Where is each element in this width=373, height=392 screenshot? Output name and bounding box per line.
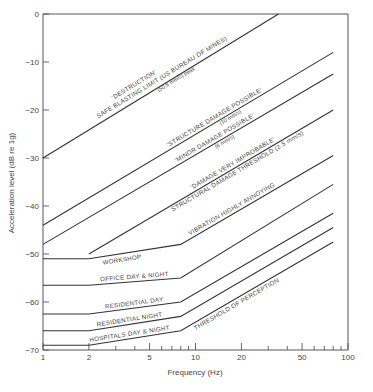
- x-tick-label: 10: [191, 353, 200, 362]
- curve-residential-day: [43, 213, 333, 314]
- y-tick-label: −70: [25, 346, 39, 355]
- y-tick-label: −60: [25, 298, 39, 307]
- vibration-criteria-chart: 0−10−20−30−40−50−60−70125102050100 'DEST…: [0, 0, 373, 392]
- x-axis-title: Frequency (Hz): [167, 368, 222, 377]
- y-tick-label: −20: [25, 106, 39, 115]
- curve-residential-night: [43, 228, 333, 331]
- x-tick-label: 100: [341, 353, 355, 362]
- y-tick-label: −40: [25, 202, 39, 211]
- y-tick-label: −50: [25, 250, 39, 259]
- x-tick-label: 20: [237, 353, 246, 362]
- x-tick-label: 5: [147, 353, 152, 362]
- label-workshop: WORKSHOP: [102, 253, 142, 266]
- label-structural-damage-threshold: STRUCTURAL DAMAGE THRESHOLD (2.5 mm/s): [170, 129, 305, 212]
- x-tick-label: 50: [298, 353, 307, 362]
- y-tick-label: 0: [35, 10, 40, 19]
- y-tick-label: −10: [25, 58, 39, 67]
- curve-minor-damage-possible: [43, 74, 333, 244]
- curve-labels: 'DESTRUCTION'SAFE BLASTING LIMIT (US BUR…: [89, 34, 305, 343]
- curve-workshop: [43, 156, 333, 259]
- label-office: OFFICE DAY & NIGHT: [100, 270, 169, 282]
- label-safe-blasting-limit: SAFE BLASTING LIMIT (US BUREAU OF MINES): [95, 34, 228, 119]
- x-tick-label: 1: [41, 353, 46, 362]
- x-tick-label: 2: [87, 353, 92, 362]
- y-tick-label: −30: [25, 154, 39, 163]
- y-axis-title: Acceleration level (dB re 1g): [7, 132, 16, 233]
- curve-hospitals-day-night: [43, 242, 333, 345]
